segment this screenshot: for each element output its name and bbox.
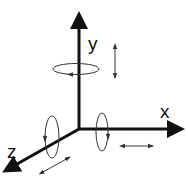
z-axis (10, 129, 79, 168)
axes-diagram: y x z (0, 0, 188, 182)
z-axis-label: z (7, 141, 17, 162)
z-translation-arrow (43, 157, 70, 172)
x-axis-label: x (160, 101, 170, 122)
y-rotation-ring (53, 64, 99, 75)
y-axis-label: y (88, 33, 98, 54)
z-rotation-ring (45, 116, 59, 158)
diagram-canvas: y x z (0, 0, 188, 182)
x-rotation-ring (96, 113, 108, 151)
